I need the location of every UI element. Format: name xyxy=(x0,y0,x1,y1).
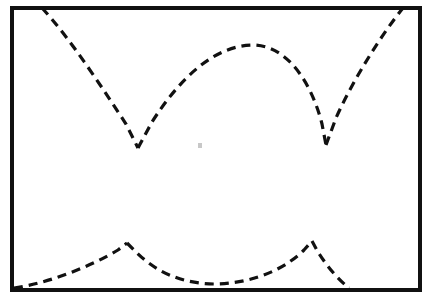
figure-svg xyxy=(0,0,434,301)
scan-speckle xyxy=(198,143,202,148)
plot-border xyxy=(12,8,420,290)
figure-container xyxy=(0,0,434,301)
